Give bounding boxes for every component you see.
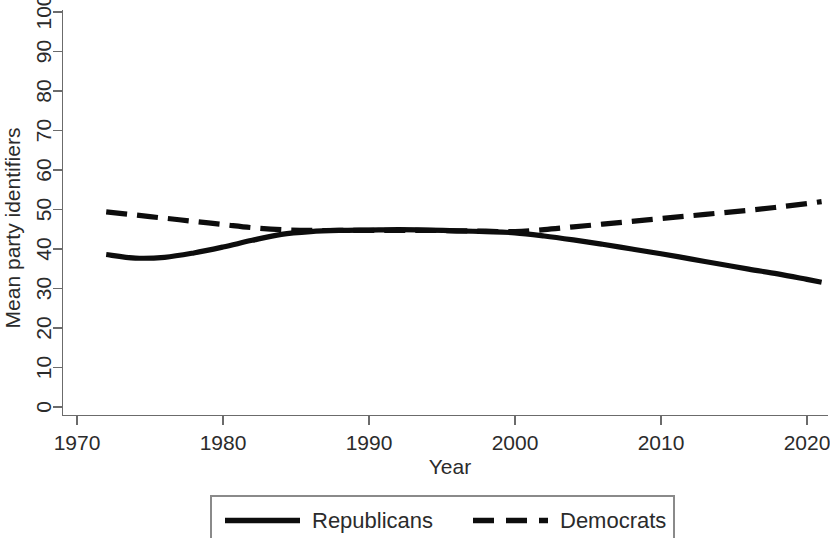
x-tick-label: 1990 [346, 431, 393, 454]
y-tick-label: 90 [32, 40, 55, 63]
x-tick-label: 2000 [492, 431, 539, 454]
y-tick-label: 50 [32, 198, 55, 221]
y-tick-label: 100 [32, 0, 55, 30]
x-tick-label: 2020 [784, 431, 830, 454]
series-group [106, 202, 821, 283]
y-tick-label: 70 [32, 119, 55, 142]
chart-figure: 0102030405060708090100 19701980199020002… [0, 0, 830, 538]
chart-legend: Republicans Democrats [211, 496, 674, 538]
y-tick-label: 60 [32, 158, 55, 181]
legend-label-democrats: Democrats [560, 508, 666, 533]
y-tick-label: 40 [32, 237, 55, 260]
y-tick-label: 20 [32, 316, 55, 339]
y-axis-ticks: 0102030405060708090100 [32, 0, 63, 413]
x-tick-label: 1980 [200, 431, 247, 454]
y-tick-label: 80 [32, 79, 55, 102]
legend-label-republicans: Republicans [312, 508, 433, 533]
x-tick-label: 2010 [638, 431, 685, 454]
series-line-democrats [106, 202, 821, 232]
y-tick-label: 10 [32, 356, 55, 379]
x-axis-title: Year [429, 455, 471, 478]
series-line-republicans [106, 230, 821, 283]
x-tick-label: 1970 [54, 431, 101, 454]
y-axis-title: Mean party identifiers [1, 128, 24, 329]
y-tick-label: 30 [32, 277, 55, 300]
y-tick-label: 0 [32, 401, 55, 413]
line-chart: 0102030405060708090100 19701980199020002… [0, 0, 830, 538]
x-axis-ticks: 197019801990200020102020 [54, 416, 830, 455]
